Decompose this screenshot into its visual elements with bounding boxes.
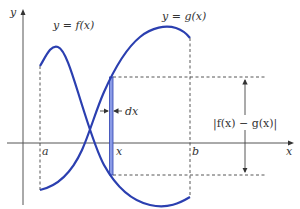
interval-b-label: b bbox=[192, 145, 199, 158]
curve-g-label: y = g(x) bbox=[161, 10, 206, 23]
curve-f-label: y = f(x) bbox=[52, 19, 94, 32]
y-axis-label: y bbox=[9, 6, 17, 19]
height-label: |f(x) − g(x)| bbox=[213, 117, 277, 131]
strip-x-label: x bbox=[116, 145, 123, 158]
interval-a-label: a bbox=[42, 145, 49, 158]
area-between-curves-diagram: y x y = f(x) y = g(x) a b x dx |f(x) − g… bbox=[0, 0, 300, 209]
x-axis-label: x bbox=[286, 145, 293, 158]
y-axis-arrow-icon bbox=[21, 9, 26, 15]
strip-rectangle bbox=[110, 77, 114, 175]
dx-label: dx bbox=[125, 105, 139, 118]
